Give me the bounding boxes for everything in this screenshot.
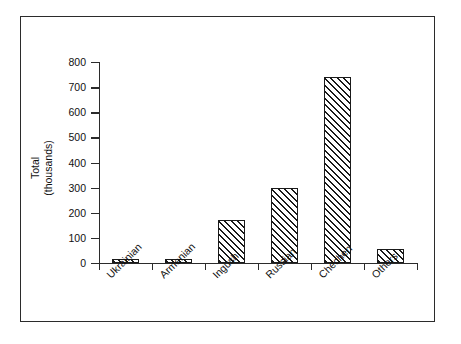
y-axis-tick (91, 137, 99, 138)
y-axis-tick-label: 100 (52, 232, 86, 244)
x-axis-tick (311, 263, 312, 270)
y-axis-line (99, 62, 100, 263)
x-axis-tick (258, 263, 259, 270)
y-axis-tick-label: 0 (52, 257, 86, 269)
x-axis-tick (99, 263, 100, 270)
y-axis-tick (91, 188, 99, 189)
y-axis-tick-label: 300 (52, 182, 86, 194)
y-axis-tick (91, 87, 99, 88)
y-axis-title: Total (thousands) (30, 118, 52, 218)
y-axis-tick-label: 800 (52, 56, 86, 68)
x-axis-tick (152, 263, 153, 270)
y-axis-tick-label: 200 (52, 207, 86, 219)
y-axis-tick (91, 112, 99, 113)
y-axis-tick-label: 600 (52, 106, 86, 118)
y-axis-tick (91, 238, 99, 239)
x-axis-tick (364, 263, 365, 270)
y-axis-tick-label: 400 (52, 157, 86, 169)
x-axis-tick (417, 263, 418, 270)
y-axis-tick (91, 62, 99, 63)
y-axis-tick-label: 700 (52, 81, 86, 93)
bar (324, 77, 351, 263)
y-axis-title-line-1: Total (29, 140, 42, 195)
x-axis-tick (205, 263, 206, 270)
y-axis-tick (91, 213, 99, 214)
y-axis-tick (91, 163, 99, 164)
y-axis-tick (91, 263, 99, 264)
y-axis-tick-label: 500 (52, 131, 86, 143)
